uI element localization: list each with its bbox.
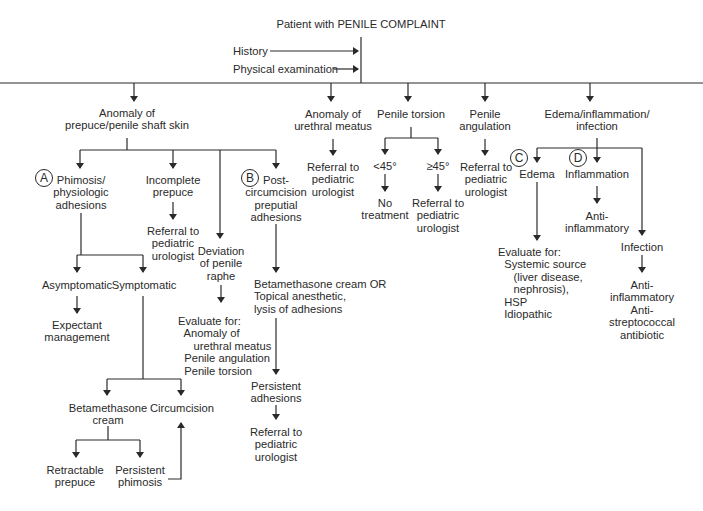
node-meatus-referral: Referral to pediatric urologist — [307, 161, 359, 198]
node-persistent-phimosis: Persistent phimosis — [115, 464, 165, 489]
node-phimosis: Phimosis/ physiologic adhesions — [53, 174, 108, 211]
node-penile-angulation: Penile angulation — [459, 108, 511, 133]
node-torsion-lt45: <45° — [373, 160, 396, 172]
node-asymptomatic: Asymptomatic — [42, 279, 112, 291]
node-circumcision: Circumcision — [150, 402, 214, 414]
flowchart-canvas: Patient with PENILE COMPLAINT History Ph… — [0, 0, 703, 511]
node-persistent-adhesions: Persistent adhesions — [250, 380, 301, 405]
node-infection: Infection — [621, 241, 663, 253]
node-torsion-ge45: ≥45° — [426, 160, 449, 172]
node-edema-group: Edema/inflammation/ infection — [544, 108, 649, 133]
node-symptomatic: Symptomatic — [112, 279, 177, 291]
node-retractable-prepuce: Retractable prepuce — [46, 464, 103, 489]
badge-c-icon: C — [510, 149, 528, 167]
node-incomplete-referral: Referral to pediatric urologist — [147, 225, 199, 262]
badge-d-icon: D — [569, 149, 587, 167]
node-incomplete-prepuce: Incomplete prepuce — [146, 174, 201, 199]
node-anti-inflammatory: Anti- inflammatory — [565, 210, 629, 235]
node-postcirc-referral: Referral to pediatric urologist — [250, 426, 302, 463]
node-infection-treatment: Anti- inflammatory Anti- streptococcal a… — [609, 279, 675, 341]
badge-a-icon: A — [35, 169, 53, 187]
connector-lines — [0, 0, 703, 511]
node-raphe-evaluate: Evaluate for: Anomaly of urethral meatus… — [178, 315, 271, 377]
node-prepuce-anomaly: Anomaly of prepuce/penile shaft skin — [65, 107, 189, 132]
input-physical-examination: Physical examination — [233, 63, 338, 75]
node-torsion-referral: Referral to pediatric urologist — [412, 197, 464, 234]
node-meatus-anomaly: Anomaly of urethral meatus — [294, 108, 372, 133]
node-angulation-referral: Referral to pediatric urologist — [460, 161, 512, 198]
node-postcirc-treatment: Betamethasone cream OR Topical anestheti… — [254, 278, 386, 315]
root-node-title: Patient with PENILE COMPLAINT — [276, 18, 445, 30]
node-raphe-deviation: Deviation of penile raphe — [198, 245, 245, 282]
input-history: History — [233, 45, 268, 57]
node-no-treatment: No treatment — [361, 197, 408, 222]
node-betamethasone-cream: Betamethasone cream — [69, 402, 147, 427]
node-expectant-management: Expectant management — [44, 319, 109, 344]
node-postcirc-adhesions: Post- circumcision preputial adhesions — [245, 174, 307, 224]
node-edema: Edema — [519, 168, 554, 180]
node-inflammation: Inflammation — [565, 168, 629, 180]
node-penile-torsion: Penile torsion — [377, 108, 445, 120]
node-edema-evaluate: Evaluate for: Systemic source (liver dis… — [498, 246, 586, 320]
